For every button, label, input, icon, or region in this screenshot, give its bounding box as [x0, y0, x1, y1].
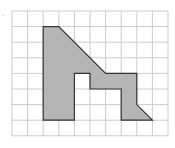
shaded-polygon	[43, 27, 152, 121]
grid-diagram	[0, 0, 175, 148]
